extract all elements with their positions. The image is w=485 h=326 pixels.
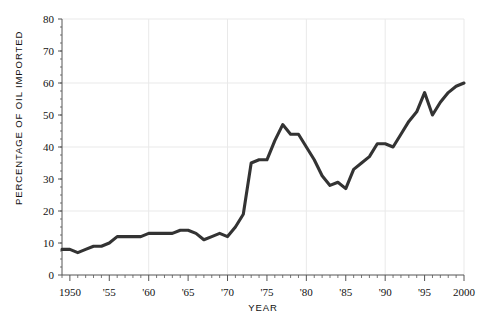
data-series-line	[62, 83, 464, 253]
chart-canvas: 01020304050607080 1950'55'60'65'70'75'80…	[0, 0, 485, 326]
x-tick-label: '65	[182, 286, 195, 298]
x-tick-label: '80	[300, 286, 313, 298]
y-axis-ticks	[58, 19, 62, 275]
y-tick-label: 20	[43, 205, 55, 217]
y-axis-tick-labels: 01020304050607080	[43, 13, 55, 281]
oil-import-line-chart: 01020304050607080 1950'55'60'65'70'75'80…	[0, 0, 485, 326]
x-tick-label: '70	[221, 286, 234, 298]
x-axis-title: YEAR	[248, 302, 277, 313]
x-axis-ticks	[62, 275, 464, 281]
y-tick-label: 10	[43, 237, 55, 249]
y-tick-label: 0	[49, 269, 55, 281]
y-tick-label: 40	[43, 141, 55, 153]
gridlines-horizontal	[62, 19, 464, 211]
x-tick-label: 1950	[59, 286, 82, 298]
x-tick-label: '90	[379, 286, 392, 298]
x-tick-label: '85	[339, 286, 352, 298]
y-tick-label: 30	[43, 173, 55, 185]
series-line-oil-imported	[62, 83, 464, 253]
x-axis-tick-labels: 1950'55'60'65'70'75'80'85'90'952000	[59, 286, 476, 298]
x-tick-label: '75	[260, 286, 273, 298]
x-tick-label: '55	[103, 286, 116, 298]
x-tick-label: 2000	[453, 286, 476, 298]
x-tick-label: '60	[142, 286, 155, 298]
y-tick-label: 80	[43, 13, 55, 25]
y-tick-label: 60	[43, 77, 55, 89]
x-tick-label: '95	[418, 286, 431, 298]
y-tick-label: 50	[43, 109, 55, 121]
y-axis-title: PERCENTAGE OF OIL IMPORTED	[13, 31, 24, 205]
y-tick-label: 70	[43, 45, 55, 57]
